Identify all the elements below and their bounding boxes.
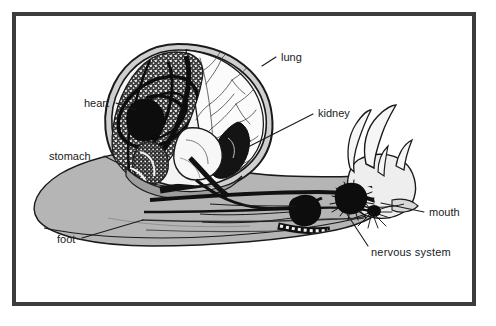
snail-shell [105, 44, 273, 198]
leader-lung [262, 57, 276, 66]
anatomy-figure: lung heart kidney stomach mouth nervous … [0, 0, 496, 326]
label-mouth: mouth [429, 206, 460, 218]
snail-anatomy-illustration: lung heart kidney stomach mouth nervous … [0, 0, 496, 326]
label-heart: heart [84, 97, 109, 109]
label-foot: foot [57, 233, 75, 245]
label-lung: lung [281, 51, 302, 63]
label-stomach: stomach [49, 150, 91, 162]
label-nervous-system: nervous system [371, 246, 451, 258]
label-kidney: kidney [318, 107, 350, 119]
